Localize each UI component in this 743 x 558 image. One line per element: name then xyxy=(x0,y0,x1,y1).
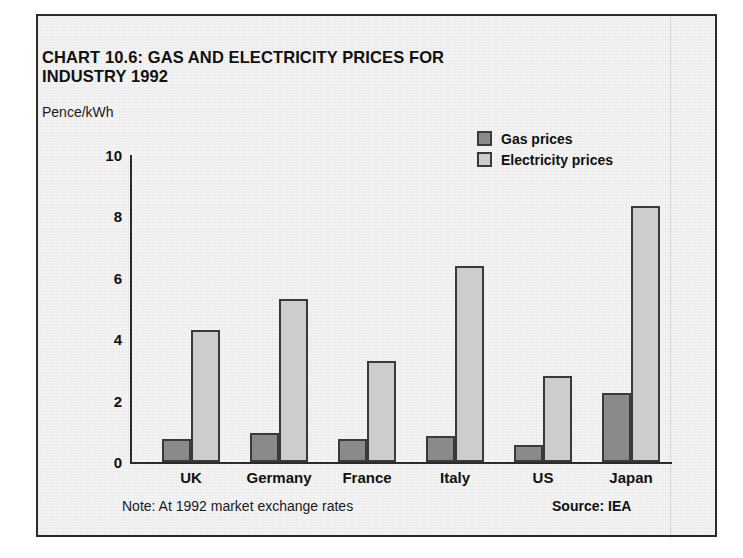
plot-area: 10 8 6 4 2 0 UK Germany xyxy=(112,141,672,471)
y-tick-label-4: 4 xyxy=(92,331,122,348)
bar-gas-uk xyxy=(162,439,191,462)
y-tick-label-0: 0 xyxy=(92,454,122,471)
chart-title-line-1: CHART 10.6: GAS AND ELECTRICITY PRICES F… xyxy=(42,48,444,66)
bar-electricity-uk xyxy=(191,330,220,462)
y-tick-label-10: 10 xyxy=(92,147,122,164)
y-axis-unit-label: Pence/kWh xyxy=(42,104,114,120)
bar-gas-italy xyxy=(426,436,455,462)
bar-electricity-germany xyxy=(279,299,308,462)
x-category-label-germany: Germany xyxy=(246,469,311,486)
bar-electricity-us xyxy=(543,376,572,462)
y-tick-label-8: 8 xyxy=(92,208,122,225)
chart-title: CHART 10.6: GAS AND ELECTRICITY PRICES F… xyxy=(42,48,512,86)
x-category-label-uk: UK xyxy=(180,469,202,486)
footnote-text: Note: At 1992 market exchange rates xyxy=(122,498,353,514)
x-category-label-japan: Japan xyxy=(609,469,652,486)
bar-gas-germany xyxy=(250,433,279,462)
bar-gas-france xyxy=(338,439,367,462)
chart-title-line-2: INDUSTRY 1992 xyxy=(42,67,512,86)
bar-electricity-france xyxy=(367,361,396,462)
bars-layer xyxy=(132,155,672,462)
y-tick-label-6: 6 xyxy=(92,269,122,286)
x-category-label-italy: Italy xyxy=(440,469,470,486)
bar-electricity-italy xyxy=(455,266,484,463)
bar-gas-japan xyxy=(602,393,631,462)
x-axis-line xyxy=(130,462,672,464)
x-category-label-us: US xyxy=(533,469,554,486)
x-category-label-france: France xyxy=(342,469,391,486)
bar-gas-us xyxy=(514,445,543,462)
bar-electricity-japan xyxy=(631,206,660,462)
y-tick-label-2: 2 xyxy=(92,392,122,409)
source-attribution: Source: IEA xyxy=(552,498,631,514)
scanned-page: CHART 10.6: GAS AND ELECTRICITY PRICES F… xyxy=(0,0,743,558)
